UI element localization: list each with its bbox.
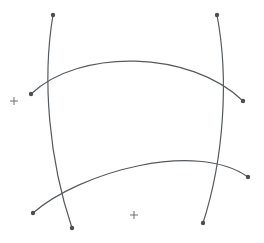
lower-horizontal-arc-endpoint-dot-0 (31, 211, 35, 215)
figure-svg (0, 0, 264, 243)
upper-horizontal-arc-endpoint-dot-1 (241, 99, 245, 103)
lower-horizontal-arc-endpoint-dot-1 (246, 175, 250, 179)
left-vertical-curve-endpoint-dot-0 (51, 13, 55, 17)
right-vertical-curve-endpoint-dot-1 (201, 221, 205, 225)
right-vertical-curve-endpoint-dot-0 (215, 13, 219, 17)
upper-horizontal-arc-endpoint-dot-0 (29, 92, 33, 96)
curve-figure-canvas (0, 0, 264, 243)
left-vertical-curve-endpoint-dot-1 (70, 226, 74, 230)
figure-background (0, 0, 264, 243)
